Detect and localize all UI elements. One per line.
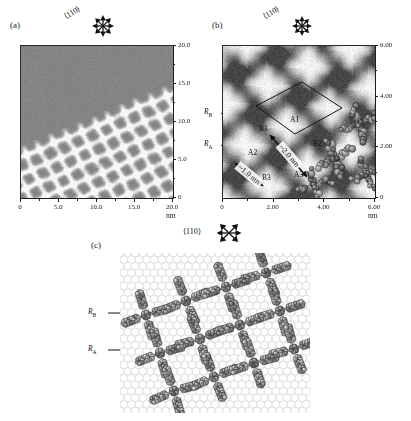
panel-a-y-tick	[173, 83, 176, 84]
panel-a-x-tick	[20, 199, 21, 202]
panel-a-y-tick-label: 15.0	[178, 79, 190, 87]
panel-b-letter: (b)	[212, 20, 223, 30]
panel-a-x-tick-label: 10.0	[90, 203, 102, 211]
panel-b-direction-label: ⟨110⟩	[261, 4, 281, 21]
panel-a-x-tick	[134, 199, 135, 202]
panel-b-x-tick	[374, 199, 375, 202]
panel-b-y-minor-tick	[375, 121, 377, 122]
panel-a-y-tick-label: 10.0	[178, 117, 190, 125]
panel-a-y-tick-label: 20.0	[178, 41, 190, 49]
panel-a-x-tick	[96, 199, 97, 202]
panel-a-x-tick-label: 0	[18, 203, 22, 211]
panel-b-x-minor-tick	[298, 199, 299, 201]
panel-b-label-a1: A1	[290, 115, 299, 124]
panel-a-letter: (a)	[10, 20, 20, 30]
panel-a-y-minor-tick	[173, 102, 175, 103]
panel-c-letter: (c)	[91, 240, 101, 250]
panel-b-x-minor-tick	[349, 199, 350, 201]
panel-c-direction-star-icon	[217, 224, 242, 242]
panel-b-y-minor-tick	[375, 70, 377, 71]
panel-b-x-minor-tick	[247, 199, 248, 201]
panel-b-y-tick	[375, 146, 378, 147]
panel-c-structure-model	[120, 253, 310, 413]
panel-a-x-tick-label: 15.0	[128, 203, 140, 211]
panel-b-label-b2: B2	[313, 139, 322, 148]
panel-a-x-tick	[172, 199, 173, 202]
panel-b-y-minor-tick	[375, 172, 377, 173]
panel-c-direction-label: ⟨110⟩	[183, 227, 201, 236]
panel-c-label-rb: RB	[88, 307, 96, 318]
figure-root: (a) ⟨110⟩	[0, 0, 411, 421]
panel-a-stm-image	[20, 45, 174, 199]
panel-a-y-minor-tick	[173, 140, 175, 141]
panel-a-x-minor-tick	[115, 199, 116, 201]
panel-b-y-tick-label: 6.00	[380, 41, 392, 49]
panel-a-x-minor-tick	[39, 199, 40, 201]
panel-b-x-tick-label: 0	[220, 203, 224, 211]
panel-c-label-ra: RA	[88, 344, 97, 355]
panel-a-unit-label: nm	[166, 211, 176, 220]
panel-b-x-tick-label: 4.00	[317, 203, 329, 211]
panel-b-x-tick	[273, 199, 274, 202]
panel-a-x-tick-label: 20.0	[166, 203, 178, 211]
panel-a-y-tick-label: 5.0	[178, 155, 187, 163]
panel-b-y-tick-label: 0	[380, 193, 384, 201]
panel-a-direction-star-icon	[92, 15, 114, 37]
panel-b-unit-label: nm	[368, 211, 378, 220]
panel-a-y-tick	[173, 197, 176, 198]
panel-a-y-tick	[173, 121, 176, 122]
panel-a-x-tick-label: 5.0	[54, 203, 63, 211]
panel-b-y-tick	[375, 45, 378, 46]
panel-b-y-tick-label: 4.00	[380, 92, 392, 100]
panel-a-y-tick	[173, 159, 176, 160]
panel-b-y-tick	[375, 96, 378, 97]
panel-b-x-tick	[323, 199, 324, 202]
panel-b-x-tick-label: 2.00	[267, 203, 279, 211]
panel-a-x-tick	[58, 199, 59, 202]
panel-b-direction-star-icon	[292, 16, 312, 36]
panel-b-y-tick-label: 2.00	[380, 142, 392, 150]
panel-b-x-tick-label: 6.00	[368, 203, 380, 211]
panel-b-label-a3: A3	[294, 170, 303, 179]
panel-b-y-tick	[375, 197, 378, 198]
panel-b-label-b3: B3	[262, 173, 271, 182]
panel-b-label-a2: A2	[248, 148, 257, 157]
panel-a-y-tick-label: 0	[178, 193, 182, 201]
panel-b-label-b1: B1	[259, 124, 268, 133]
panel-b-label-ra: RA	[204, 139, 213, 150]
panel-a-direction-label: ⟨110⟩	[62, 4, 82, 21]
panel-a-x-minor-tick	[77, 199, 78, 201]
panel-a-x-minor-tick	[153, 199, 154, 201]
panel-b-label-rb: RB	[204, 107, 212, 118]
panel-a-y-minor-tick	[173, 64, 175, 65]
panel-a-y-tick	[173, 45, 176, 46]
panel-b-x-tick	[222, 199, 223, 202]
panel-a-y-minor-tick	[173, 178, 175, 179]
